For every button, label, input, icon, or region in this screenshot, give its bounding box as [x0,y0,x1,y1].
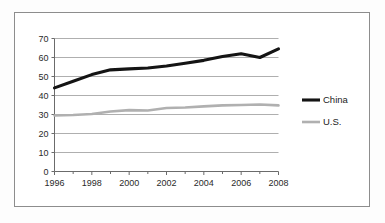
x-tick-label-1998: 1998 [82,178,102,188]
series-line-us [55,104,279,115]
y-tick-label-70: 70 [38,34,48,44]
y-tick-label-30: 30 [38,110,48,120]
y-tick-label-40: 40 [38,91,48,101]
y-tick-label-60: 60 [38,53,48,63]
x-tick-label-2008: 2008 [268,178,288,188]
chart-figure: 0102030405060701996199820002002200420062… [0,0,385,223]
legend-label-china: China [323,94,349,105]
y-tick-label-10: 10 [38,148,48,158]
x-tick-label-2006: 2006 [231,178,251,188]
x-tick-label-1996: 1996 [44,178,64,188]
line-chart: 0102030405060701996199820002002200420062… [0,0,385,223]
series-line-china [55,49,279,88]
y-tick-label-50: 50 [38,72,48,82]
y-tick-label-0: 0 [43,167,48,177]
legend-label-us: U.S. [323,116,341,127]
y-tick-label-20: 20 [38,129,48,139]
x-tick-label-2004: 2004 [194,178,214,188]
x-tick-label-2000: 2000 [119,178,139,188]
x-tick-label-2002: 2002 [156,178,176,188]
